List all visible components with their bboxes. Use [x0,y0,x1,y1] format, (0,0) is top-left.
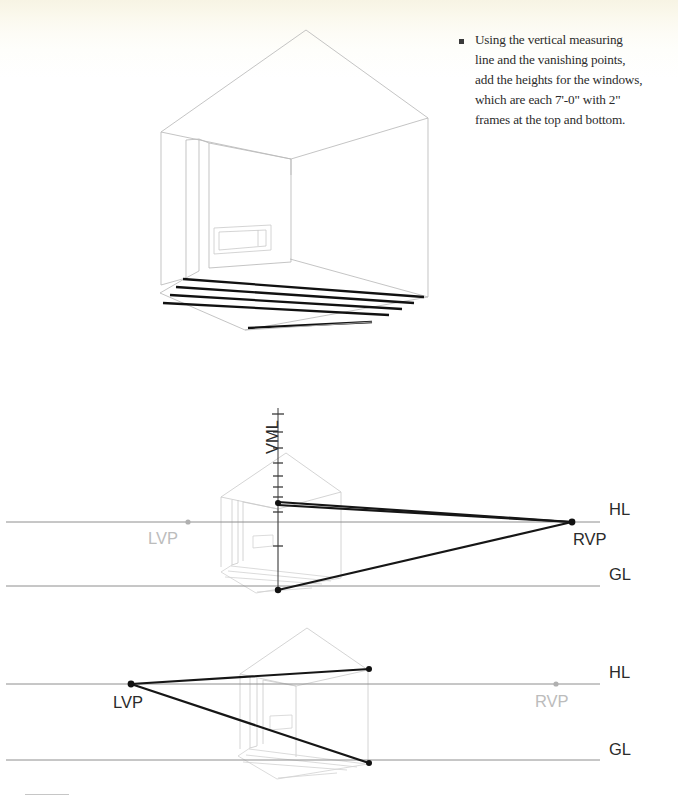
rvp-label-inactive: RVP [535,692,569,710]
figure-lvp-construction: HL GL LVP RVP [0,612,678,806]
page-canvas: Using the vertical measuring line and th… [0,0,678,806]
room-outer-shell [161,30,428,297]
gl-label: GL [609,740,631,758]
footer-rule [25,794,69,795]
left-wall-return [186,139,199,278]
vml-label: VML [263,420,281,454]
ghost-window [253,535,273,548]
vml-upper-point-marker[interactable] [275,500,281,506]
ghost-roof-left [221,453,286,567]
ghost-room-middle [221,453,341,593]
ghost-window [270,715,292,730]
ghost-roof-right [307,628,368,764]
window-inner-frame [219,230,266,250]
wall-base-point-marker[interactable] [366,760,372,766]
hl-label: HL [609,663,630,681]
ghost-roof-right [286,453,341,578]
door-base-to-corner [209,262,291,268]
door-head-to-corner [209,143,291,159]
hl-label: HL [609,500,630,518]
rvp-point-marker[interactable] [553,681,558,686]
room-inner-walls [186,139,291,278]
floor-front-edge [245,322,372,330]
floor-plank-2 [176,287,414,303]
figure-rvp-construction: VML HL GL RVP LVP [0,350,678,612]
wall-top-point-marker[interactable] [366,666,372,672]
ghost-plank-2 [228,571,331,581]
lvp-label: LVP [113,693,143,711]
construction-line-upper [278,505,572,522]
floor-plank-3 [170,295,402,309]
construction-line-base [278,522,572,590]
door-jamb-depth [199,139,209,268]
ghost-door-head [263,680,296,686]
ghost-plank-3 [243,762,347,770]
floor-plank-1 [183,279,424,297]
ghost-left-return [232,500,238,565]
rvp-construction-lines [278,502,572,590]
left-wall-base-return [186,271,199,278]
rvp-label: RVP [573,530,607,548]
lvp-point-marker[interactable] [185,519,190,524]
roof-right-slope [306,30,428,297]
figure-interior-room-perspective [0,0,678,350]
left-wall-base [161,278,186,285]
gl-label: GL [609,565,631,583]
ghost-ceiling-ridge [221,492,341,509]
window-opening [214,225,271,254]
lvp-label-inactive: LVP [148,529,178,547]
lvp-point-marker[interactable] [128,681,135,688]
ghost-left-return [250,677,257,748]
vml-base-point-marker[interactable] [275,587,281,593]
ghost-door-head [243,502,278,509]
ceiling-ridge-line [161,118,428,159]
rvp-point-marker[interactable] [569,519,576,526]
